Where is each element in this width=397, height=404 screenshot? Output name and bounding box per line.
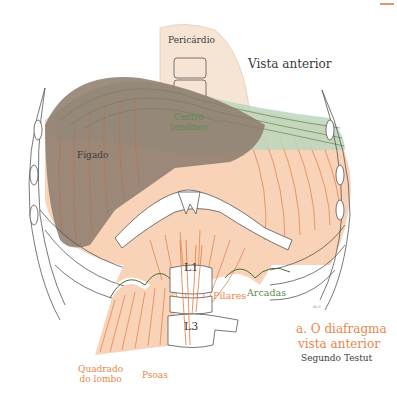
label-l3: L3 <box>184 321 198 334</box>
label-l1: L1 <box>184 262 198 275</box>
label-arcadas: Arcadas <box>247 288 286 299</box>
corner-mark <box>380 3 394 5</box>
artist-signature: Dr.C <box>313 305 321 309</box>
quadratus-lumborum <box>95 280 175 355</box>
label-centro-tendineo: Centro tendíneo <box>170 113 208 133</box>
diaphragm-diagram: Dr.C Pericárdio Vista anterior Centro te… <box>0 0 397 404</box>
label-pilares: Pilares <box>213 291 246 302</box>
view-label: Vista anterior <box>248 58 332 72</box>
label-figado: Fígado <box>77 150 108 160</box>
caption-source: Segundo Testut <box>301 353 372 363</box>
label-pericardio: Pericárdio <box>168 35 215 45</box>
label-psoas: Psoas <box>142 370 168 380</box>
lumbar-vertebrae <box>168 265 238 348</box>
caption-title: a. O diafragma <box>296 323 387 337</box>
label-quadrado-do-lombo: Quadrado do lombo <box>78 364 123 385</box>
caption-subtitle: vista anterior <box>298 338 380 352</box>
